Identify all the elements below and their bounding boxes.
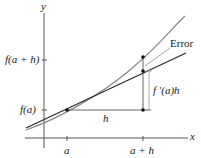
diagram-canvas	[0, 0, 201, 158]
h-label: h	[103, 113, 109, 124]
x-axis-label: x	[190, 131, 195, 142]
y-axis-label: y	[41, 1, 46, 12]
derivative-label: f ′(a)h	[153, 85, 180, 96]
error-label: Error	[170, 38, 193, 49]
y-tick-label-f-a: f(a)	[20, 104, 36, 115]
error-leader-line	[145, 48, 170, 66]
x-tick-label-a-plus-h: a + h	[130, 145, 154, 156]
x-tick-label-a: a	[64, 145, 70, 156]
point-curve-a-plus-h	[141, 55, 145, 59]
point-h-end	[141, 108, 145, 112]
linear-approximation-diagram: y x f(a + h) f(a) a a + h h f ′(a)h Erro…	[0, 0, 201, 158]
point-tangent-a-plus-h	[141, 69, 145, 73]
y-tick-label-f-a-plus-h: f(a + h)	[5, 54, 39, 65]
point-a-fa	[65, 108, 69, 112]
